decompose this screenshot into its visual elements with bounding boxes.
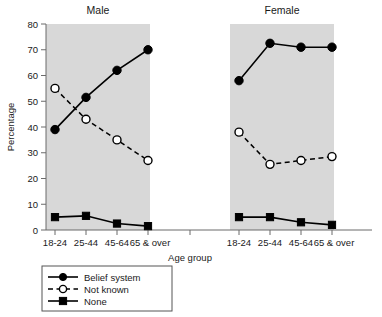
- y-tick-label: 50: [27, 96, 38, 107]
- x-tick-label: 25-44: [74, 237, 98, 248]
- male-plot-background: [46, 24, 150, 230]
- data-point-belief-system-3: [328, 43, 336, 51]
- legend-label: Belief system: [84, 272, 141, 283]
- chart-canvas: 80 70 60 50 40 30 20 10 0 Percentage 18-…: [0, 0, 382, 317]
- y-tick-label: 70: [27, 44, 38, 55]
- data-point-none-3: [144, 223, 151, 230]
- y-tick-label: 80: [27, 19, 38, 30]
- chart-figure: 80 70 60 50 40 30 20 10 0 Percentage 18-…: [0, 0, 382, 317]
- data-point-none-2: [297, 219, 304, 226]
- male-x-tick-labels: 18-24 25-44 45-64 65 & over: [43, 237, 170, 248]
- y-tick-label: 30: [27, 147, 38, 158]
- data-point-not-known-1: [266, 160, 274, 168]
- female-panel-title: Female: [264, 4, 299, 16]
- data-point-not-known-0: [235, 128, 243, 136]
- x-tick-label: 18-24: [43, 237, 67, 248]
- data-point-none-1: [266, 214, 273, 221]
- data-point-not-known-3: [144, 156, 152, 164]
- data-point-not-known-1: [82, 115, 90, 123]
- legend-entry-belief-system: Belief system: [48, 272, 141, 283]
- data-point-not-known-2: [113, 136, 121, 144]
- data-point-not-known-0: [51, 84, 59, 92]
- data-point-none-2: [113, 220, 120, 227]
- legend-marker-open-circle: [59, 285, 66, 292]
- data-point-belief-system-0: [51, 125, 59, 133]
- data-point-belief-system-3: [144, 46, 152, 54]
- data-point-none-1: [82, 212, 89, 219]
- x-tick-label: 65 & over: [314, 237, 355, 248]
- male-panel-title: Male: [87, 4, 110, 16]
- x-tick-label: 65 & over: [130, 237, 171, 248]
- data-point-belief-system-2: [113, 66, 121, 74]
- data-point-not-known-2: [297, 156, 305, 164]
- x-tick-label: 45-64: [105, 237, 129, 248]
- data-point-none-0: [51, 214, 58, 221]
- y-axis-ticks: [41, 24, 46, 230]
- y-tick-label: 60: [27, 70, 38, 81]
- x-tick-label: 25-44: [258, 237, 282, 248]
- x-tick-label: 45-64: [289, 237, 313, 248]
- legend-marker-filled-square: [59, 297, 66, 304]
- data-point-belief-system-1: [82, 93, 90, 101]
- y-tick-label: 20: [27, 173, 38, 184]
- x-axis-ticks: [55, 230, 332, 235]
- data-point-none-3: [328, 221, 335, 228]
- y-tick-label: 0: [33, 225, 38, 236]
- female-x-tick-labels: 18-24 25-44 45-64 65 & over: [227, 237, 354, 248]
- data-point-belief-system-2: [297, 43, 305, 51]
- y-tick-label: 40: [27, 122, 38, 133]
- female-plot-background: [230, 24, 334, 230]
- data-point-belief-system-1: [266, 39, 274, 47]
- legend-marker-filled-circle: [59, 273, 66, 280]
- y-axis-title: Percentage: [5, 103, 16, 152]
- y-tick-label: 10: [27, 199, 38, 210]
- y-axis-tick-labels: 80 70 60 50 40 30 20 10 0: [27, 19, 38, 236]
- legend-label: Not known: [84, 284, 129, 295]
- data-point-none-0: [235, 214, 242, 221]
- legend-label: None: [84, 296, 107, 307]
- x-axis-title: Age group: [168, 252, 212, 263]
- data-point-not-known-3: [328, 153, 336, 161]
- x-tick-label: 18-24: [227, 237, 251, 248]
- data-point-belief-system-0: [235, 76, 243, 84]
